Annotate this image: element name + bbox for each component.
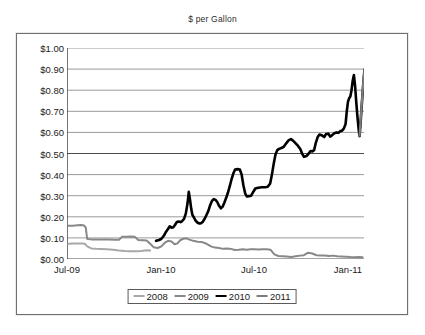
legend-label-2008: 2008 xyxy=(147,292,168,302)
x-tick-label: Jan-10 xyxy=(146,264,175,275)
legend-entry-2008[interactable]: 2008 xyxy=(134,292,168,302)
chart-frame: $0.00$0.10$0.20$0.30$0.40$0.50$0.60$0.70… xyxy=(16,33,408,315)
y-tick-label: $0.20 xyxy=(18,211,64,222)
legend-swatch-2008 xyxy=(134,295,145,297)
plot-svg xyxy=(67,48,364,259)
y-tick-label: $0.70 xyxy=(18,106,64,117)
x-tick-label: Jan-11 xyxy=(334,264,362,275)
x-tick-label: Jul-09 xyxy=(54,264,80,275)
y-tick-label: $1.00 xyxy=(18,43,64,54)
legend-swatch-2010 xyxy=(216,295,227,297)
legend-entry-2010[interactable]: 2010 xyxy=(216,292,250,302)
series-line-2010 xyxy=(156,70,364,241)
y-tick-label: $0.40 xyxy=(18,169,64,180)
legend-label-2011: 2011 xyxy=(270,292,290,302)
legend-entry-2011[interactable]: 2011 xyxy=(257,292,290,302)
y-tick-label: $0.30 xyxy=(18,190,64,201)
legend-entry-2009[interactable]: 2009 xyxy=(175,292,209,302)
legend-label-2009: 2009 xyxy=(188,292,209,302)
y-axis-tick-labels: $0.00$0.10$0.20$0.30$0.40$0.50$0.60$0.70… xyxy=(17,48,64,259)
y-tick-label: $0.90 xyxy=(18,64,64,75)
y-tick-label: $0.50 xyxy=(18,148,64,159)
series-line-2009 xyxy=(68,225,362,257)
series-line-2011 xyxy=(360,69,364,135)
legend-swatch-2011 xyxy=(257,295,268,297)
legend-swatch-2009 xyxy=(175,295,186,297)
plot-area xyxy=(67,48,364,259)
x-axis-tick-labels: Jul-09Jan-10Jul-10Jan-11 xyxy=(67,264,364,280)
x-tick-label: Jul-10 xyxy=(241,264,267,275)
y-tick-label: $0.10 xyxy=(18,232,64,243)
series-line-2008 xyxy=(68,243,150,251)
chart-title: $ per Gallon xyxy=(0,14,425,24)
y-tick-label: $0.00 xyxy=(18,254,64,265)
chart-legend: 2008200920102011 xyxy=(128,289,297,305)
y-tick-label: $0.60 xyxy=(18,127,64,138)
y-tick-label: $0.80 xyxy=(18,85,64,96)
legend-label-2010: 2010 xyxy=(229,292,250,302)
chart-figure: $ per Gallon $0.00$0.10$0.20$0.30$0.40$0… xyxy=(0,0,425,335)
